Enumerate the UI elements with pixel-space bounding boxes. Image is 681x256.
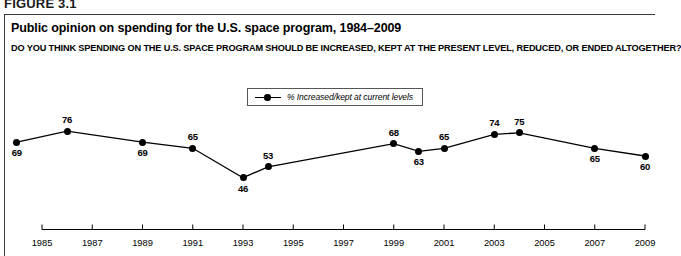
data-point-marker: [491, 131, 498, 138]
data-point-value-label: 69: [137, 147, 147, 158]
data-point-value-label: 53: [263, 150, 273, 161]
data-point-marker: [642, 153, 649, 160]
data-point-marker: [240, 174, 247, 181]
data-point-marker: [13, 139, 20, 146]
data-point-value-label: 76: [62, 114, 72, 125]
x-axis-tick-label: 1991: [182, 238, 203, 248]
x-axis-tick-label: 2007: [584, 238, 605, 248]
data-point-value-label: 75: [514, 116, 524, 127]
data-point-value-label: 46: [238, 183, 248, 194]
data-point-value-label: 74: [489, 117, 499, 128]
data-point-marker: [189, 145, 196, 152]
data-point-value-label: 65: [439, 131, 449, 142]
data-point-marker: [591, 145, 598, 152]
x-axis-tick-label: 1987: [82, 238, 103, 248]
x-axis-tick-label: 2001: [434, 238, 455, 248]
data-point-marker: [64, 128, 71, 135]
x-axis-tick-label: 2009: [635, 238, 656, 248]
x-axis-tick-label: 2003: [484, 238, 505, 248]
x-axis-tick-label: 2005: [534, 238, 555, 248]
x-axis-tick-label: 1993: [233, 238, 254, 248]
data-point-marker: [139, 139, 146, 146]
data-point-marker: [441, 145, 448, 152]
data-point-marker: [265, 163, 272, 170]
data-point-value-label: 63: [414, 156, 424, 167]
x-axis-tick-marks: [42, 225, 645, 230]
data-point-value-label: 65: [188, 131, 198, 142]
data-point-value-label: 68: [389, 127, 399, 138]
x-axis-tick-label: 1985: [32, 238, 53, 248]
data-point-value-label: 65: [590, 153, 600, 164]
data-point-value-label: 69: [12, 147, 22, 158]
x-axis-tick-label: 1989: [132, 238, 153, 248]
x-axis-tick-label: 1995: [283, 238, 304, 248]
series-line-increased-kept: [17, 131, 645, 178]
data-point-value-label: 60: [640, 161, 650, 172]
x-axis-tick-label: 1999: [383, 238, 404, 248]
x-axis-tick-label: 1997: [333, 238, 354, 248]
